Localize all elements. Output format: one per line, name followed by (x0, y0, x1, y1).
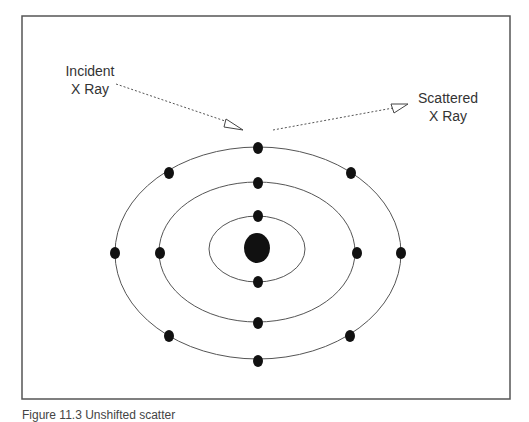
electron (253, 276, 263, 288)
electron (253, 317, 263, 329)
electron (253, 177, 263, 189)
scattered-label-line1: Scattered (408, 89, 488, 107)
electron (396, 247, 406, 259)
electron (164, 330, 174, 342)
electron (253, 210, 263, 222)
electron (345, 330, 355, 342)
scattered-label-line2: X Ray (408, 107, 488, 125)
incident-label: Incident X Ray (50, 62, 130, 98)
electron (346, 167, 356, 179)
electron (253, 355, 263, 367)
scattered-label: Scattered X Ray (408, 89, 488, 125)
electron (164, 167, 174, 179)
electron (253, 142, 263, 154)
incident-label-line1: Incident (50, 62, 130, 80)
figure-caption: Figure 11.3 Unshifted scatter (22, 408, 175, 422)
electron (352, 247, 362, 259)
incident-label-line2: X Ray (50, 80, 130, 98)
nucleus (244, 233, 270, 263)
electron (110, 247, 120, 259)
electron (155, 247, 165, 259)
